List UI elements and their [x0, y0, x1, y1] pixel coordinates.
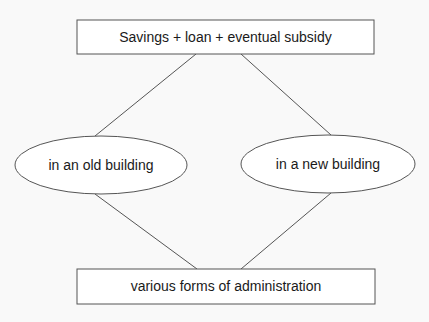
node-right-label: in a new building [276, 156, 380, 172]
edge-right-to-bottom [241, 193, 331, 269]
edge-top-to-right [241, 54, 331, 135]
edge-top-to-left [95, 54, 196, 136]
node-top: Savings + loan + eventual subsidy [77, 20, 374, 54]
node-left: in an old building [15, 136, 187, 194]
node-left-label: in an old building [48, 157, 153, 173]
flow-diagram: Savings + loan + eventual subsidy in an … [0, 0, 429, 322]
node-bottom-label: various forms of administration [131, 278, 322, 294]
node-bottom: various forms of administration [77, 269, 375, 304]
edge-left-to-bottom [95, 194, 197, 269]
node-top-label: Savings + loan + eventual subsidy [119, 29, 331, 45]
node-right: in a new building [241, 135, 415, 193]
